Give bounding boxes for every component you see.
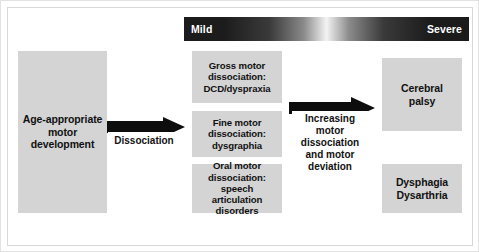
cerebral-palsy-line-2: palsy xyxy=(398,95,446,107)
box-age-appropriate-motor-development: Age-appropriate motor development xyxy=(18,51,107,213)
fine-motor-line-1: Fine motor xyxy=(205,117,269,128)
increasing-dissociation-caption: Increasing motor dissociation and motor … xyxy=(292,111,368,187)
box-oral-motor-dissociation: Oral motor dissociation: speech articula… xyxy=(192,164,282,213)
diagram-canvas: Mild Severe Age-appropriate motor develo… xyxy=(0,0,479,252)
box-cerebral-palsy: Cerebral palsy xyxy=(382,58,462,131)
increasing-caption-line-1: Increasing xyxy=(305,113,355,124)
gross-motor-line-3: DCD/dyspraxia xyxy=(201,83,274,94)
box-fine-motor-dissociation: Fine motor dissociation: dysgraphia xyxy=(192,111,282,157)
gross-motor-line-2: dissociation: xyxy=(201,71,274,82)
start-box-line-3: development xyxy=(20,138,106,150)
dysphagia-line-1: Dysphagia xyxy=(393,176,451,188)
dissociation-arrow-caption: Dissociation xyxy=(108,132,180,150)
severity-severe-label: Severe xyxy=(427,23,462,35)
severity-gradient-bar: Mild Severe xyxy=(184,17,469,41)
increasing-caption-line-3: dissociation xyxy=(301,137,359,148)
oral-motor-line-5: disorders xyxy=(205,205,269,216)
box-gross-motor-dissociation: Gross motor dissociation: DCD/dyspraxia xyxy=(192,51,282,103)
oral-motor-line-3: speech xyxy=(205,183,269,194)
start-box-line-1: Age-appropriate xyxy=(20,113,106,125)
dissociation-caption-text: Dissociation xyxy=(114,135,173,147)
start-box-line-2: motor xyxy=(20,126,106,138)
increasing-caption-line-5: motor xyxy=(326,149,354,160)
increasing-caption-line-4: and xyxy=(306,149,324,160)
oral-motor-line-2: dissociation: xyxy=(205,172,269,183)
increasing-caption-line-2: motor xyxy=(316,125,344,136)
oral-motor-line-1: Oral motor xyxy=(205,160,269,171)
severity-mild-label: Mild xyxy=(191,23,212,35)
oral-motor-line-4: articulation xyxy=(205,194,269,205)
cerebral-palsy-line-1: Cerebral xyxy=(398,82,446,94)
box-dysphagia-dysarthria: Dysphagia Dysarthria xyxy=(382,164,462,213)
fine-motor-line-2: dissociation: xyxy=(205,128,269,139)
gross-motor-line-1: Gross motor xyxy=(201,60,274,71)
dysarthria-line-2: Dysarthria xyxy=(393,189,451,201)
fine-motor-line-3: dysgraphia xyxy=(205,140,269,151)
increasing-caption-line-6: deviation xyxy=(308,161,352,172)
